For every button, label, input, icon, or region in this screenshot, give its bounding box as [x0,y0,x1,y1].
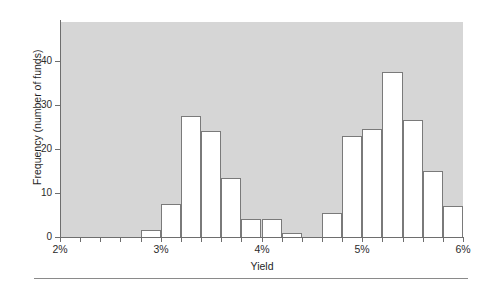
footer-divider [34,278,468,279]
y-tick-mark [55,61,61,62]
histogram-bar [262,219,282,238]
histogram-bar [382,72,402,238]
histogram-bar [201,131,221,238]
x-tick-label: 3% [141,244,181,255]
histogram-bar [181,116,201,238]
y-axis-label: Frequency (number of funds) [32,17,43,217]
histogram-bar [161,204,181,238]
histogram-bar [221,178,241,238]
y-tick-mark [55,193,61,194]
histogram-bar [342,136,362,238]
histogram-bar [362,129,382,238]
x-tick-label: 5% [342,244,382,255]
histogram-bar [423,171,443,238]
y-tick-label: 0 [20,232,52,242]
histogram-bar [241,219,261,238]
histogram-figure: 010203040 2%3%4%5%6% Frequency (number o… [0,0,489,292]
x-tick-label: 4% [242,244,282,255]
histogram-bar [322,213,342,238]
histogram-bar [403,120,423,238]
x-axis-label: Yield [60,261,464,272]
x-tick-label: 2% [40,244,80,255]
x-tick-label: 6% [443,244,483,255]
x-axis-line [60,237,464,238]
y-tick-label-text: 0 [20,232,52,242]
histogram-bar [443,206,463,238]
y-tick-mark [55,149,61,150]
y-tick-mark [55,105,61,106]
